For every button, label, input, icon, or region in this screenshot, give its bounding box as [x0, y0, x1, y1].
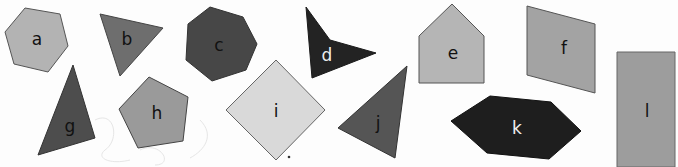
shape-k: k	[451, 96, 581, 159]
triangle-g	[38, 65, 95, 155]
shape-label: d	[322, 45, 333, 65]
shape-l: l	[617, 52, 675, 167]
triangle-j	[338, 66, 407, 158]
shape-f: f	[527, 6, 595, 93]
shape-d: d	[306, 7, 376, 78]
scribble	[95, 118, 130, 162]
shape-label: k	[512, 118, 522, 138]
shape-label: h	[152, 103, 163, 123]
shape-label: l	[645, 101, 650, 121]
shape-a: a	[5, 8, 68, 72]
shape-g: g	[38, 65, 95, 155]
shape-c: c	[186, 7, 257, 81]
shape-label: f	[561, 38, 568, 58]
shape-b: b	[100, 14, 163, 76]
shape-i: i	[226, 60, 325, 160]
shape-j: j	[338, 66, 407, 158]
shape-label: j	[375, 113, 381, 133]
shape-label: g	[65, 116, 76, 136]
shape-h: h	[119, 77, 188, 148]
shape-label: i	[274, 101, 279, 121]
shape-label: a	[32, 29, 42, 49]
scribble	[190, 120, 207, 158]
shape-label: e	[448, 43, 458, 63]
shape-label: b	[122, 29, 133, 49]
shape-e: e	[419, 4, 484, 83]
concave-quadrilateral-d	[306, 7, 376, 78]
shape-label: c	[214, 35, 223, 55]
shapes-canvas: a b c d e f g h	[0, 0, 678, 167]
shapes-worksheet: a b c d e f g h	[0, 0, 678, 167]
scribble	[140, 148, 164, 165]
dot-mark	[288, 156, 291, 159]
